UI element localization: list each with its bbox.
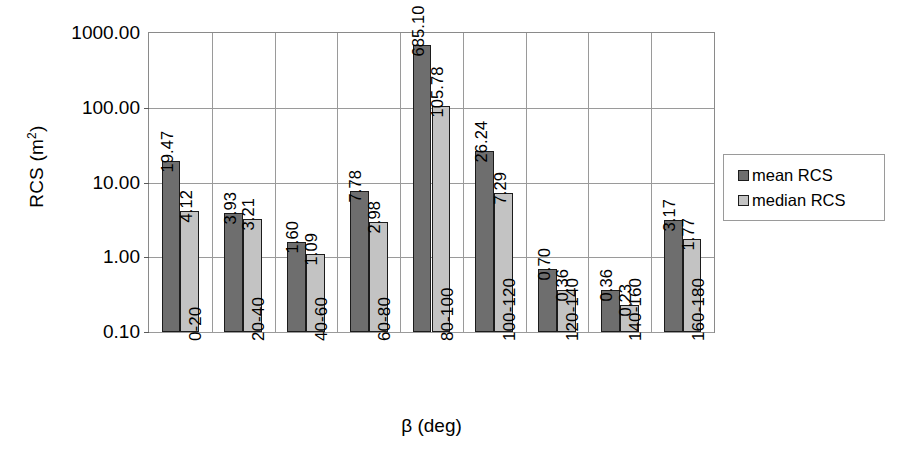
x-axis-tick-label: 20-40 bbox=[250, 297, 267, 341]
bar-value-label: 1.77 bbox=[679, 218, 696, 251]
y-axis-tick-label: 0.10 bbox=[30, 322, 140, 341]
legend-item-mean-rcs[interactable]: mean RCS bbox=[738, 163, 884, 188]
bar-value-label: 0.36 bbox=[598, 269, 615, 302]
gridline-vertical bbox=[588, 33, 589, 332]
bar-mean-20-40[interactable] bbox=[224, 213, 243, 332]
bar-value-label: 4.12 bbox=[177, 190, 194, 223]
bar-value-label: 7.78 bbox=[347, 170, 364, 203]
x-axis-tick-label: 40-60 bbox=[313, 297, 330, 341]
bar-value-label: 2.98 bbox=[366, 201, 383, 234]
gridline-vertical bbox=[400, 33, 401, 332]
bar-value-label: 1.60 bbox=[284, 221, 301, 254]
x-axis-tick-label: 80-100 bbox=[439, 287, 456, 341]
y-axis-tickmark bbox=[144, 108, 149, 109]
y-axis-tick-label: 100.00 bbox=[30, 98, 140, 117]
x-axis-tick-label: 100-120 bbox=[501, 278, 518, 341]
y-axis-tick-labels: 1000.00100.0010.001.000.10 bbox=[30, 0, 140, 453]
bar-value-label: 3.93 bbox=[221, 192, 238, 225]
y-axis-tick-label: 10.00 bbox=[30, 173, 140, 192]
legend-item-median-rcs[interactable]: median RCS bbox=[738, 188, 884, 213]
y-axis-tick-label: 1000.00 bbox=[30, 23, 140, 42]
bar-value-label: 3.21 bbox=[240, 198, 257, 231]
bar-value-label: 3.17 bbox=[661, 199, 678, 232]
gridline-vertical bbox=[337, 33, 338, 332]
legend-swatch-icon-mean bbox=[738, 170, 749, 181]
y-axis-tick-label: 1.00 bbox=[30, 247, 140, 266]
y-axis-tickmark bbox=[144, 183, 149, 184]
bar-value-label: 19.47 bbox=[158, 131, 175, 173]
bar-value-label: 105.78 bbox=[428, 66, 445, 117]
bar-value-label: 0.36 bbox=[554, 269, 571, 302]
bar-value-label: 685.10 bbox=[409, 6, 426, 57]
legend-label-mean: mean RCS bbox=[752, 166, 833, 185]
x-axis-tick-label: 160-180 bbox=[690, 278, 707, 341]
bar-value-label: 7.29 bbox=[491, 172, 508, 205]
gridline-vertical bbox=[275, 33, 276, 332]
bar-value-label: 26.24 bbox=[472, 121, 489, 163]
legend-swatch-icon-median bbox=[738, 195, 749, 206]
gridline-vertical bbox=[651, 33, 652, 332]
x-axis-tick-label: 60-80 bbox=[376, 297, 393, 341]
gridline-vertical bbox=[212, 33, 213, 332]
y-axis-tickmark bbox=[144, 257, 149, 258]
chart-legend: mean RCS median RCS bbox=[723, 154, 885, 221]
bar-value-label: 0.23 bbox=[617, 284, 634, 317]
gridline-vertical bbox=[526, 33, 527, 332]
gridline-vertical bbox=[463, 33, 464, 332]
x-axis-tick-label: 0-20 bbox=[187, 307, 204, 341]
x-axis-title: β (deg) bbox=[148, 415, 715, 437]
bar-value-label: 0.70 bbox=[535, 248, 552, 281]
legend-label-median: median RCS bbox=[752, 191, 846, 210]
rcs-bar-chart: RCS (m2) 1000.00100.0010.001.000.10 0-20… bbox=[0, 0, 922, 453]
bar-value-label: 1.09 bbox=[303, 233, 320, 266]
y-axis-tickmark bbox=[144, 332, 149, 333]
bar-mean-0-20[interactable] bbox=[162, 161, 181, 332]
